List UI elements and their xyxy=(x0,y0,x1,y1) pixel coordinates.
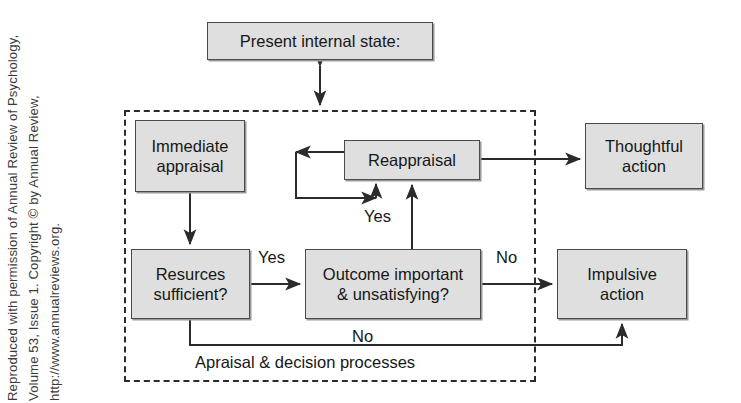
node-outcome-important-line1: Outcome important xyxy=(323,265,463,283)
node-immediate-appraisal-line2: appraisal xyxy=(157,157,224,175)
edge-label-no-resources-to-impulsive: No xyxy=(352,327,373,346)
node-reappraisal-label: Reappraisal xyxy=(368,150,456,170)
node-reappraisal[interactable]: Reappraisal xyxy=(344,140,480,180)
node-resources-sufficient-line1: Resurces xyxy=(156,265,226,283)
boundary-caption: Apraisal & decision processes xyxy=(195,353,415,372)
node-outcome-important[interactable]: Outcome important & unsatisfying? xyxy=(305,249,481,319)
node-immediate-appraisal-line1: Immediate xyxy=(151,137,228,155)
node-outcome-important-label: Outcome important & unsatisfying? xyxy=(323,264,463,304)
copyright-credit-text: Reproduced with permission of Annual Rev… xyxy=(0,0,110,403)
node-immediate-appraisal-label: Immediate appraisal xyxy=(151,136,228,176)
edge-label-yes-resources-to-outcome: Yes xyxy=(258,248,285,267)
node-immediate-appraisal[interactable]: Immediate appraisal xyxy=(135,120,245,192)
edge-label-yes-outcome-to-reappraisal: Yes xyxy=(364,207,391,226)
node-present-internal-state[interactable]: Present internal state: xyxy=(207,22,433,60)
node-impulsive-action-line2: action xyxy=(600,285,644,303)
node-thoughtful-action-label: Thoughtful action xyxy=(605,136,683,176)
node-present-internal-state-label: Present internal state: xyxy=(240,31,401,51)
node-impulsive-action-line1: Impulsive xyxy=(587,265,657,283)
node-outcome-important-line2: & unsatisfying? xyxy=(337,285,449,303)
node-resources-sufficient-label: Resurces sufficient? xyxy=(154,264,228,304)
edge-label-no-outcome-to-impulsive: No xyxy=(496,248,517,267)
node-impulsive-action[interactable]: Impulsive action xyxy=(557,249,687,319)
node-resources-sufficient[interactable]: Resurces sufficient? xyxy=(131,249,250,319)
node-thoughtful-action-line1: Thoughtful xyxy=(605,137,683,155)
node-thoughtful-action[interactable]: Thoughtful action xyxy=(585,123,703,189)
node-resources-sufficient-line2: sufficient? xyxy=(154,285,228,303)
diagram-canvas: Reproduced with permission of Annual Rev… xyxy=(0,0,741,403)
node-impulsive-action-label: Impulsive action xyxy=(587,264,657,304)
node-thoughtful-action-line2: action xyxy=(622,157,666,175)
